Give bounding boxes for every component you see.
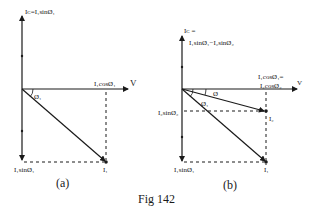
v-label-b: V	[297, 79, 302, 87]
ic-label-a: Iᴄ=I₁sinØ₁	[25, 8, 55, 16]
panel-a: Iᴄ=I₁sinØ₁ I₁cosØ₁ V Ø₁ I₁sinØ₁ I₁ (a)	[14, 8, 137, 190]
i2cos-label-b: I₂cosØ₂	[260, 82, 282, 90]
i1-label-b: I₁	[264, 166, 269, 174]
figure-caption: Fig 142	[138, 192, 175, 206]
phasor-diagram: Iᴄ=I₁sinØ₁ I₁cosØ₁ V Ø₁ I₁sinØ₁ I₁ (a) I…	[0, 0, 315, 209]
i1cos-label-a: I₁cosØ₁	[94, 80, 116, 88]
panel-label-a: (a)	[56, 176, 69, 190]
panel-b: Iᴄ = I₁sinØ₁−I₂sinØ₂ I₁cosØ₁= I₂cosØ₂ V …	[158, 27, 302, 192]
ic-label-b-line2: I₁sinØ₁−I₂sinØ₂	[189, 39, 234, 47]
i1cos-label-b: I₁cosØ₁=	[258, 73, 284, 81]
panel-label-b: (b)	[223, 178, 237, 192]
phi1-label-b: Ø₁	[201, 100, 209, 108]
ic-label-b-line1: Iᴄ =	[184, 27, 195, 35]
i1-label-a: I₁	[103, 166, 108, 174]
i2-label-b: I₂	[269, 115, 274, 123]
i1sin-label-a: I₁sinØ₁	[14, 166, 34, 174]
i1sin-label-b: I₁sinØ₁	[174, 166, 194, 174]
i2sin-label-b: I₂sinØ₂	[158, 109, 179, 117]
v-label-a: V	[130, 78, 137, 88]
phi-label-b: Ø	[213, 90, 218, 98]
phi1-label-a: Ø₁	[34, 93, 42, 101]
